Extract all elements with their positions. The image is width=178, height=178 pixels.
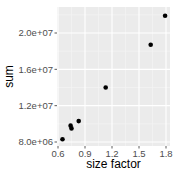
y-axis-label: sum (2, 65, 16, 88)
y-tick-label: 2.0e+07 (18, 27, 53, 38)
data-point (148, 43, 153, 48)
data-point (69, 126, 74, 131)
data-point (76, 119, 81, 124)
x-axis-label: size factor (86, 157, 141, 171)
data-point (163, 13, 168, 18)
scatter-plot: 0.60.91.21.51.88.0e+061.2e+071.6e+072.0e… (0, 0, 178, 178)
y-tick-label: 1.6e+07 (18, 64, 53, 75)
y-tick-label: 1.2e+07 (18, 100, 53, 111)
data-point (103, 85, 108, 90)
x-tick-label: 0.6 (51, 148, 64, 159)
x-tick-label: 1.8 (159, 148, 172, 159)
y-tick-label: 8.0e+06 (18, 136, 53, 147)
data-point (60, 137, 65, 142)
plot-panel (57, 7, 170, 146)
